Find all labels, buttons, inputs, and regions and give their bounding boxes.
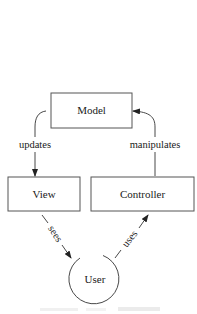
- edge-sees: sees: [42, 215, 71, 258]
- controller-node: Controller: [91, 177, 194, 211]
- edge-uses: uses: [115, 215, 148, 258]
- user-label: User: [85, 273, 106, 285]
- edge-uses-arrow: [139, 215, 148, 228]
- edge-manipulates: manipulates: [130, 111, 181, 176]
- edge-updates-label: updates: [19, 139, 51, 150]
- edge-sees-arrow: [62, 245, 71, 258]
- model-label: Model: [77, 104, 106, 116]
- user-node: User: [69, 256, 119, 304]
- edge-updates-line-top: [35, 111, 46, 137]
- caption-mark-left: [40, 308, 78, 311]
- view-label: View: [32, 188, 55, 200]
- controller-label: Controller: [120, 188, 166, 200]
- edge-sees-label: sees: [46, 223, 65, 244]
- edge-updates: updates: [19, 111, 51, 176]
- caption-mark-right: [118, 307, 160, 311]
- model-node: Model: [51, 93, 132, 128]
- edge-manipulates-arrow: [133, 111, 155, 137]
- faint-caption: [40, 307, 160, 311]
- edge-sees-line-top: [42, 215, 48, 223]
- mvc-diagram: Model View Controller User updates manip…: [0, 0, 197, 314]
- edge-manipulates-label: manipulates: [130, 139, 181, 150]
- caption-mark-middle: [86, 308, 106, 311]
- edge-uses-label: uses: [120, 228, 140, 249]
- view-node: View: [8, 177, 80, 211]
- edge-uses-line-bottom: [115, 250, 121, 258]
